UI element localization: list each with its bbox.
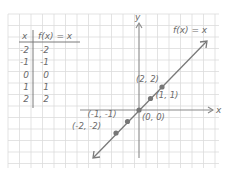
function-line: f(x) = x <box>93 25 208 158</box>
table-cell-fx: 0 <box>43 70 49 80</box>
table-header-fx: f(x) = x <box>38 31 73 41</box>
x-axis-label: x <box>215 105 222 115</box>
table-cell-fx: -1 <box>40 57 49 67</box>
table-cell-fx: -2 <box>40 45 49 55</box>
table-cell-fx: 2 <box>43 94 49 104</box>
value-table: x f(x) = x -2-2-1-1001122 <box>19 30 80 108</box>
table-cell-fx: 1 <box>43 82 49 92</box>
table-cell-x: 1 <box>23 82 29 92</box>
table-cell-x: -2 <box>20 45 29 55</box>
table-cell-x: -1 <box>20 57 29 67</box>
function-label: f(x) = x <box>173 25 208 35</box>
point-marker <box>159 84 164 89</box>
point-marker <box>148 96 153 101</box>
table-cell-x: 0 <box>23 70 29 80</box>
point-label: (0, 0) <box>142 112 165 122</box>
point-label: (-2, -2) <box>72 121 101 131</box>
point-label: (1, 1) <box>156 90 179 100</box>
table-header-x: x <box>21 31 28 41</box>
point-label: (2, 2) <box>136 74 159 84</box>
y-axis-label: y <box>134 12 141 22</box>
table-cell-x: 2 <box>23 94 29 104</box>
point-marker <box>113 130 118 135</box>
point-marker <box>125 119 130 124</box>
point-label: (-1, -1) <box>88 109 117 119</box>
point-marker <box>136 107 141 112</box>
graph-paper-figure: x f(x) = x -2-2-1-1001122 y x f(x) = x (… <box>0 0 230 183</box>
